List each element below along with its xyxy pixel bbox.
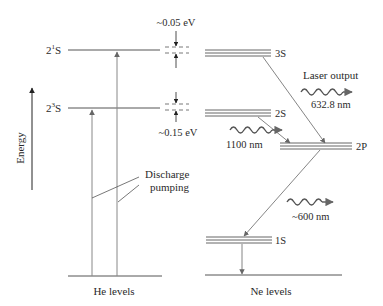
wavelength-600nm-label: ~600 nm (292, 211, 329, 222)
pumping-leader-1 (92, 177, 139, 198)
emission-1100nm: 1100 nm (226, 127, 282, 150)
ne-level-2p: 2P (280, 141, 367, 152)
he-ne-energy-diagram: Energy 21S 23S He levels Discharge pumpi… (0, 0, 383, 306)
photon-wave-icon (287, 199, 322, 205)
emission-600nm: ~600 nm (287, 199, 333, 222)
laser-output-label: Laser output (303, 69, 358, 81)
ne-level-1s-label: 1S (275, 235, 286, 246)
discharge-label: Discharge (145, 168, 190, 180)
transition-2p-to-1s (244, 150, 320, 236)
gap-marker-bottom: ~0.15 eV (159, 92, 198, 138)
gap-label-0-15ev: ~0.15 eV (159, 127, 198, 138)
ne-level-3s-label: 3S (275, 48, 286, 59)
wavelength-1100nm-label: 1100 nm (226, 139, 263, 150)
photon-wave-icon (230, 127, 272, 133)
energy-axis: Energy (14, 88, 32, 190)
ne-level-1s: 1S (206, 235, 286, 246)
diagram-canvas: Energy 21S 23S He levels Discharge pumpi… (0, 0, 383, 306)
ne-levels-label: Ne levels (250, 285, 291, 297)
laser-wavelength-label: 632.8 nm (311, 99, 351, 110)
ne-levels: 3S 2S 2P 1S Ne levels (205, 48, 367, 297)
he-levels: 21S 23S He levels Discharge pumping (46, 43, 190, 297)
pumping-leader-2 (118, 185, 139, 202)
photon-wave-icon (301, 89, 343, 95)
pumping-label: pumping (150, 181, 190, 193)
energy-axis-label: Energy (14, 132, 26, 164)
gap-marker-top: ~0.05 eV (157, 17, 196, 68)
he-levels-label: He levels (93, 285, 134, 297)
gap-label-0-05ev: ~0.05 eV (157, 17, 196, 28)
emission-laser-output: Laser output 632.8 nm (301, 69, 358, 110)
ne-level-3s: 3S (205, 48, 286, 59)
ne-level-2p-label: 2P (356, 141, 367, 152)
he-level-2-1s-label: 21S (46, 43, 61, 56)
ne-level-2s: 2S (205, 108, 286, 119)
ne-level-2s-label: 2S (275, 108, 286, 119)
he-level-2-3s-label: 23S (46, 101, 61, 114)
